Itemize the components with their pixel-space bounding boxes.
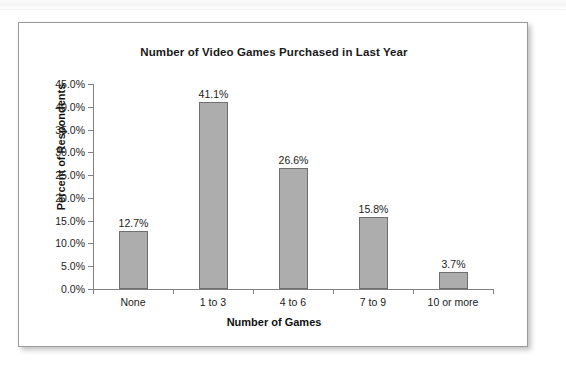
bar-value-label: 12.7% [119, 217, 149, 229]
y-axis-tick [88, 175, 93, 176]
y-axis-tick-label: 45.0% [55, 78, 85, 90]
bar-none: 12.7% [119, 231, 148, 289]
y-axis-tick-label: 0.0% [61, 283, 85, 295]
bar-value-label: 3.7% [442, 258, 466, 270]
chart-frame: Number of Video Games Purchased in Last … [18, 22, 528, 347]
y-axis-tick [88, 130, 93, 131]
bar-value-label: 15.8% [359, 203, 389, 215]
chart-title: Number of Video Games Purchased in Last … [19, 46, 529, 58]
x-axis-tick [93, 289, 94, 294]
y-axis-tick-label: 25.0% [55, 169, 85, 181]
y-axis-line [93, 84, 94, 290]
x-axis-tick [333, 289, 334, 294]
y-axis-tick [88, 266, 93, 267]
bar-10-or-more: 3.7% [439, 272, 468, 289]
x-axis-tick [493, 289, 494, 294]
y-axis-tick-label: 40.0% [55, 101, 85, 113]
x-axis-category-label: 1 to 3 [200, 296, 226, 308]
y-axis-tick [88, 84, 93, 85]
x-axis-tick [413, 289, 414, 294]
y-axis-tick-label: 30.0% [55, 146, 85, 158]
x-axis-line [93, 289, 494, 290]
x-axis-category-label: 10 or more [428, 296, 479, 308]
bar-7-to-9: 15.8% [359, 217, 388, 289]
y-axis-tick-label: 20.0% [55, 192, 85, 204]
plot-area: 0.0%5.0%10.0%15.0%20.0%25.0%30.0%35.0%40… [93, 84, 493, 289]
x-axis-category-label: None [120, 296, 145, 308]
x-axis-category-label: 4 to 6 [280, 296, 306, 308]
x-axis-title: Number of Games [19, 316, 529, 328]
x-axis-category-label: 7 to 9 [360, 296, 386, 308]
clipped-page-edge [0, 0, 566, 10]
bar-value-label: 26.6% [279, 154, 309, 166]
y-axis-tick [88, 243, 93, 244]
y-axis-tick [88, 198, 93, 199]
y-axis-tick-label: 10.0% [55, 237, 85, 249]
y-axis-tick [88, 152, 93, 153]
y-axis-tick-label: 35.0% [55, 124, 85, 136]
bar-4-to-6: 26.6% [279, 168, 308, 289]
y-axis-tick-label: 15.0% [55, 215, 85, 227]
y-axis-tick [88, 221, 93, 222]
y-axis-tick [88, 107, 93, 108]
y-axis-tick-label: 5.0% [61, 260, 85, 272]
bar-1-to-3: 41.1% [199, 102, 228, 289]
bar-value-label: 41.1% [199, 88, 229, 100]
x-axis-tick [173, 289, 174, 294]
x-axis-tick [253, 289, 254, 294]
